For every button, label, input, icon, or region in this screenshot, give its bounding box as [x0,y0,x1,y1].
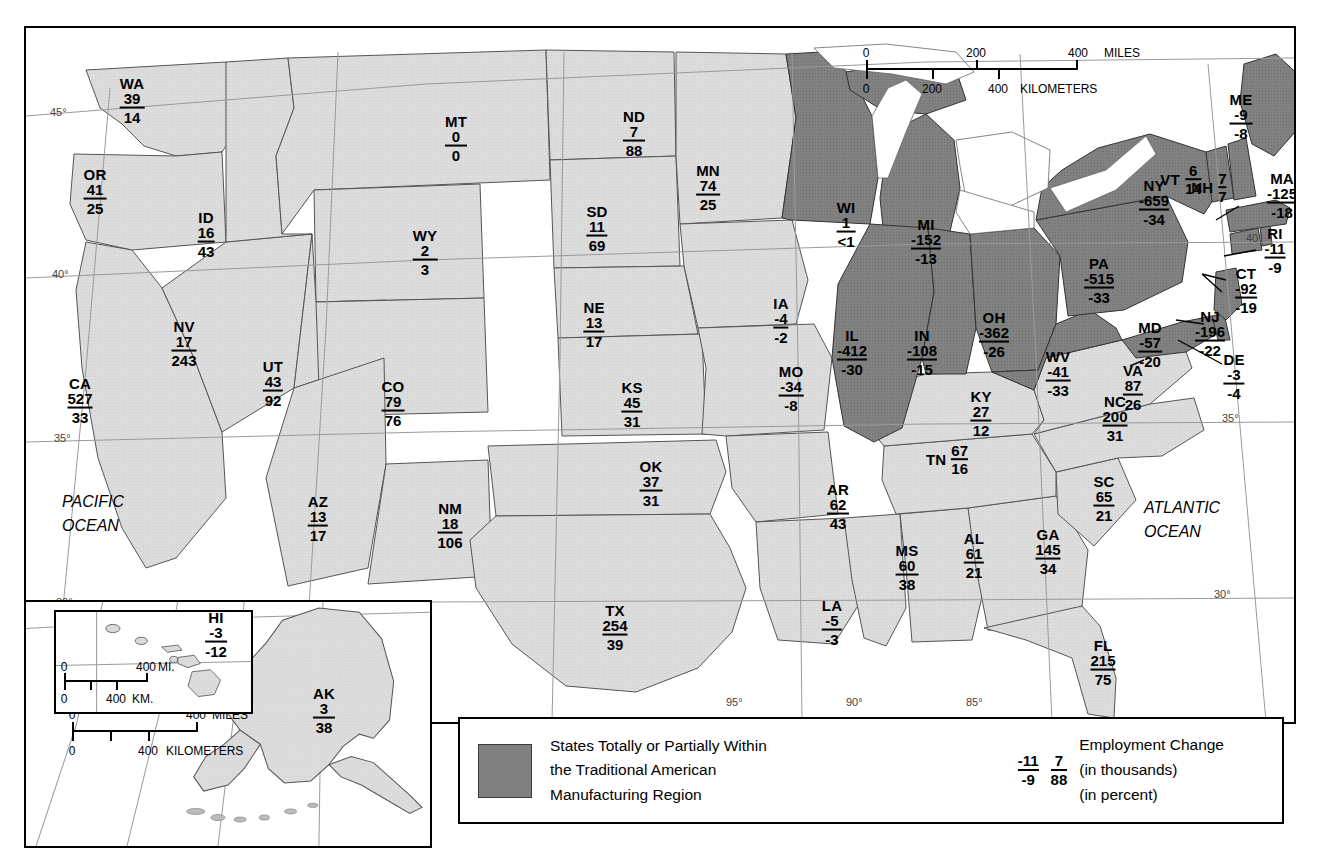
state-percent-IN: -15 [907,358,937,376]
state-label-MA: MA-125-18 [1267,171,1296,220]
state-percent-ID: 43 [198,240,215,258]
state-label-MN: MN7425 [696,163,720,212]
state-label-TN: TN6716 [926,443,968,477]
state-thousands-NV: 17 [171,334,196,349]
state-thousands-UT: 43 [263,374,283,389]
state-label-ME: ME-9-8 [1230,92,1253,141]
state-label-DE: DE-3-4 [1223,352,1244,401]
state-percent-TN: 16 [951,459,968,477]
lat-label-right-30: 30° [1214,588,1231,600]
state-abbr-KY: KY [970,389,991,404]
state-abbr-AL: AL [964,531,984,546]
state-label-OK: OK3731 [640,459,663,508]
state-percent-MS: 38 [896,573,919,591]
state-abbr-NE: NE [583,300,604,315]
state-percent-CO: 76 [382,409,405,427]
state-percent-TX: 39 [602,633,627,651]
state-abbr-MN: MN [696,163,720,178]
state-thousands-WA: 39 [120,91,145,106]
state-percent-KS: 31 [621,410,642,428]
state-thousands-IN: -108 [907,343,937,358]
lat-label-40: 40° [52,268,69,280]
state-percent-AL: 21 [964,561,984,579]
legend-value-key: -11 -9 7 88 Employment Change (in thousa… [1018,733,1264,807]
state-thousands-AL: 61 [964,546,984,561]
state-abbr-IL: IL [837,328,867,343]
state-label-LA: LA-5-3 [822,598,842,647]
state-label-SC: SC6521 [1093,474,1114,523]
state-abbr-MO: MO [779,364,804,379]
state-percent-LA: -3 [822,628,842,646]
state-thousands-MI: -152 [911,232,941,247]
state-thousands-IL: -412 [837,343,867,358]
state-label-FL: FL21575 [1090,638,1115,687]
state-label-OR: OR4125 [84,167,107,216]
state-label-ND: ND788 [623,109,645,158]
state-fraction-NH: 77 [1218,171,1226,205]
state-label-MT: MT00 [445,114,467,163]
state-thousands-IA: -4 [773,311,788,326]
state-abbr-WI: WI [837,200,856,215]
state-thousands-MT: 0 [445,129,467,144]
state-abbr-GA: GA [1035,527,1060,542]
state-percent-KY: 12 [970,419,991,437]
state-percent-MT: 0 [445,144,467,162]
state-percent-HI: -12 [205,640,227,658]
state-abbr-MD: MD [1138,320,1162,335]
state-thousands-GA: 145 [1035,542,1060,557]
state-label-CO: CO7976 [382,379,405,428]
state-label-WI: WI1<1 [837,200,856,249]
state-abbr-AK: AK [313,686,335,701]
state-thousands-HI: -3 [205,625,227,640]
state-abbr-CO: CO [382,379,405,394]
state-percent-PA: -33 [1084,286,1114,304]
state-abbr-NV: NV [171,319,196,334]
state-thousands-AZ: 13 [308,509,328,524]
legend-key-example-1: -11 -9 [1018,753,1039,788]
state-thousands-FL: 215 [1090,653,1115,668]
state-thousands-RI: -11 [1265,241,1286,256]
state-percent-OR: 25 [84,197,107,215]
state-thousands-AR: 62 [827,497,849,512]
state-abbr-CA: CA [67,376,92,391]
state-thousands-TN: 67 [951,443,968,458]
state-abbr-RI: RI [1265,226,1286,241]
state-thousands-KY: 27 [970,404,991,419]
state-thousands-MS: 60 [896,558,919,573]
state-percent-NC: 31 [1102,424,1127,442]
state-percent-MA: -18 [1267,201,1296,219]
state-abbr-HI: HI [205,610,227,625]
state-abbr-WY: WY [413,228,438,243]
state-percent-NJ: -22 [1195,339,1225,357]
legend-description: States Totally or Partially Within the T… [550,734,767,806]
state-label-AR: AR6243 [827,482,849,531]
state-percent-AR: 43 [827,512,849,530]
state-abbr-AZ: AZ [308,494,328,509]
state-percent-FL: 75 [1090,668,1115,686]
state-abbr-IN: IN [907,328,937,343]
state-abbr-WV: WV [1046,349,1071,364]
legend-key-units: Employment Change (in thousands) (in per… [1079,733,1224,807]
state-label-AL: AL6121 [964,531,984,580]
state-abbr-ND: ND [623,109,645,124]
state-label-MI: MI-152-13 [911,217,941,266]
state-percent-OK: 31 [640,489,663,507]
state-label-MO: MO-34-8 [779,364,804,413]
state-thousands-WV: -41 [1046,364,1071,379]
state-label-IL: IL-412-30 [837,328,867,377]
state-label-NH: NH77 [1191,171,1226,205]
state-percent-CA: 33 [67,406,92,424]
state-label-SD: SD1169 [586,204,607,253]
state-thousands-OH: -362 [979,325,1009,340]
state-label-OH: OH-362-26 [979,310,1009,359]
state-percent-CT: -19 [1235,296,1257,314]
state-thousands-ME: -9 [1230,107,1253,122]
state-percent-MD: -20 [1138,350,1162,368]
state-abbr-MT: MT [445,114,467,129]
pacific-ocean-label: PACIFIC OCEAN [62,490,124,538]
state-label-IN: IN-108-15 [907,328,937,377]
state-thousands-WI: 1 [837,215,856,230]
state-thousands-NM: 18 [437,516,462,531]
state-percent-UT: 92 [263,389,283,407]
state-percent-WY: 3 [413,258,438,276]
